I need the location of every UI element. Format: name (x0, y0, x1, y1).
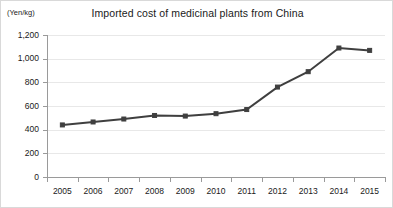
data-point (306, 70, 310, 74)
x-axis-tick (47, 178, 48, 182)
y-axis-tick-label: 0 (5, 173, 39, 182)
series-layer (1, 1, 393, 208)
x-axis-tick (231, 178, 232, 182)
data-point (60, 123, 64, 127)
y-axis-tick-label: 600 (5, 102, 39, 111)
y-axis-tick (43, 153, 47, 154)
data-point (91, 120, 95, 124)
y-axis-tick (43, 35, 47, 36)
y-axis-tick-label: 800 (5, 78, 39, 87)
x-axis-tick (201, 178, 202, 182)
x-axis-tick (170, 178, 171, 182)
y-axis-tick (43, 59, 47, 60)
line-chart: (Yen/kg) Imported cost of medicinal plan… (0, 0, 393, 208)
data-point (368, 48, 372, 52)
x-axis-tick (385, 178, 386, 182)
y-axis-tick-label: 400 (5, 125, 39, 134)
y-axis-tick (43, 82, 47, 83)
y-axis-tick (43, 130, 47, 131)
data-point (245, 108, 249, 112)
x-axis-tick (324, 178, 325, 182)
data-point (337, 46, 341, 50)
x-axis-tick (108, 178, 109, 182)
x-axis-tick (262, 178, 263, 182)
data-point (153, 113, 157, 117)
y-axis-tick-label: 200 (5, 149, 39, 158)
x-axis-tick (293, 178, 294, 182)
x-axis-tick (78, 178, 79, 182)
x-axis-tick (139, 178, 140, 182)
y-axis-tick-label: 1,200 (5, 31, 39, 40)
y-axis-tick-label: 1,000 (5, 54, 39, 63)
data-point (122, 117, 126, 121)
data-point (275, 85, 279, 89)
x-axis-tick-label: 2015 (350, 187, 390, 196)
y-axis-tick (43, 106, 47, 107)
data-point (183, 114, 187, 118)
x-axis-tick (354, 178, 355, 182)
data-point (214, 112, 218, 116)
